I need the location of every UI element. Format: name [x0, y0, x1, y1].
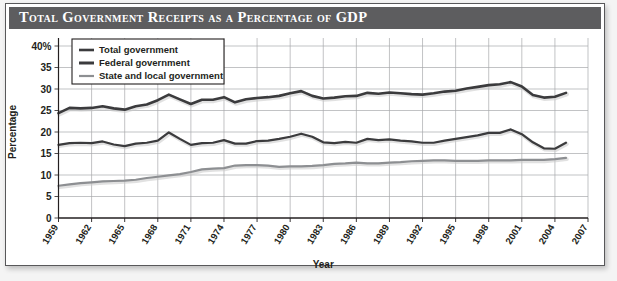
legend-label: Total government: [99, 44, 179, 55]
y-tick-label: 0: [46, 213, 52, 224]
x-tick-label: 2007: [569, 222, 590, 246]
x-tick-label: 1992: [404, 222, 425, 246]
y-tick-label: 10: [40, 170, 52, 181]
y-tick-label: 5: [46, 191, 52, 202]
legend-label: State and local government: [99, 70, 224, 81]
y-tick-label: 30: [40, 84, 52, 95]
y-tick-label: 25: [40, 105, 52, 116]
x-tick-label: 2004: [536, 222, 557, 246]
x-tick-label: 1986: [338, 222, 359, 246]
x-tick-label: 1971: [172, 222, 193, 246]
line-chart: 0510152025303540% 1959196219651968197119…: [0, 0, 617, 281]
x-tick-label: 1974: [205, 222, 226, 246]
x-tick-label: 1989: [371, 222, 392, 246]
y-tick-label: 35: [40, 62, 52, 73]
x-tick-label: 1998: [470, 222, 491, 246]
x-tick-label: 1977: [238, 222, 259, 246]
x-tick-label: 1965: [106, 222, 127, 246]
x-axis-label: Year: [313, 259, 334, 270]
y-axis-label: Percentage: [7, 105, 18, 159]
legend-label: Federal government: [99, 57, 191, 68]
x-tick-label: 1962: [73, 222, 94, 246]
x-tick-label: 1995: [437, 222, 458, 246]
x-tick-label: 1968: [139, 222, 160, 246]
x-tick-label: 1980: [271, 222, 292, 246]
x-tick-label: 1959: [40, 222, 61, 246]
x-tick-label: 1983: [304, 222, 325, 246]
y-axis-ticks: 0510152025303540%: [31, 41, 58, 224]
plot-area-wrapper: 0510152025303540% 1959196219651968197119…: [0, 0, 617, 281]
y-tick-label: 40%: [31, 41, 51, 52]
chart-legend: Total governmentFederal governmentState …: [72, 39, 224, 84]
x-axis-ticks: 1959196219651968197119741977198019831986…: [40, 218, 590, 246]
x-tick-label: 2001: [503, 222, 524, 246]
series-lines: [59, 82, 567, 187]
y-tick-label: 15: [40, 148, 52, 159]
y-tick-label: 20: [40, 127, 52, 138]
chart-figure: Total Government Receipts as a Percentag…: [0, 0, 617, 281]
